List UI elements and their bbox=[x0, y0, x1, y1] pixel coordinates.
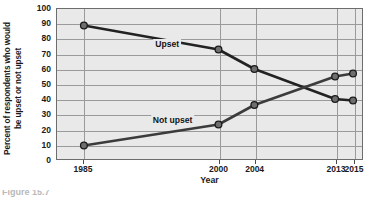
y-axis-tick-label: 80 bbox=[42, 33, 51, 43]
y-axis-tick-label: 100 bbox=[37, 3, 51, 13]
series-label-upset: Upset bbox=[153, 39, 181, 49]
y-axis-tick-label: 60 bbox=[42, 64, 51, 74]
series-line bbox=[84, 26, 353, 101]
data-point-marker bbox=[251, 102, 258, 109]
data-point-marker bbox=[332, 73, 339, 80]
x-axis-tick-label: 2013 bbox=[326, 164, 345, 174]
figure-container: Percent of respondents who would be upse… bbox=[0, 0, 380, 202]
y-axis-tick-label: 50 bbox=[42, 79, 51, 89]
y-axis-tick-label: 10 bbox=[42, 140, 51, 150]
y-axis-title-line-2: be upset or not upset bbox=[13, 22, 24, 155]
x-axis-title: Year bbox=[56, 175, 363, 185]
series-lines bbox=[57, 9, 362, 159]
y-axis-tick-label: 40 bbox=[42, 94, 51, 104]
y-axis-tick-labels: 0102030405060708090100 bbox=[26, 0, 54, 176]
y-axis-title-line-1: Percent of respondents who would bbox=[3, 22, 12, 155]
y-axis-tick-label: 70 bbox=[42, 49, 51, 59]
y-axis-tick-label: 20 bbox=[42, 125, 51, 135]
x-axis-tick-label: 1985 bbox=[74, 164, 93, 174]
x-axis-tick-label: 2000 bbox=[209, 164, 228, 174]
data-point-marker bbox=[332, 96, 339, 103]
data-point-marker bbox=[251, 66, 258, 73]
data-point-marker bbox=[350, 70, 357, 77]
series-line bbox=[84, 74, 353, 146]
y-axis-tick-label: 30 bbox=[42, 109, 51, 119]
y-axis-title: Percent of respondents who would be upse… bbox=[0, 0, 26, 176]
figure-caption-text: Figure 15.7 bbox=[2, 190, 142, 197]
series-label-not-upset: Not upset bbox=[151, 115, 195, 125]
data-point-marker bbox=[215, 46, 222, 53]
figure-caption: Figure 15.7 bbox=[2, 190, 142, 202]
y-axis-tick-label: 0 bbox=[46, 155, 51, 165]
x-axis-tick-label: 2015 bbox=[345, 164, 364, 174]
data-point-marker bbox=[81, 22, 88, 29]
plot-area: UpsetNot upset bbox=[56, 8, 363, 160]
y-axis-tick-label: 90 bbox=[42, 18, 51, 28]
data-point-marker bbox=[215, 121, 222, 128]
x-axis-tick-label: 2004 bbox=[245, 164, 264, 174]
data-point-marker bbox=[81, 142, 88, 149]
data-point-marker bbox=[350, 97, 357, 104]
